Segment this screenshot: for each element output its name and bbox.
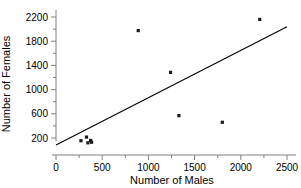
y-tick-label: 1000 (26, 84, 49, 95)
y-axis-title: Number of Females (0, 35, 12, 132)
data-point-marker (169, 71, 172, 74)
data-point-marker (177, 114, 180, 117)
y-tick-label: 2200 (26, 12, 49, 23)
data-point-marker (221, 121, 224, 124)
x-tick-label: 2000 (230, 162, 253, 173)
data-points-group (79, 18, 261, 145)
tick-labels-group: 2006001000140018002200050010001500200025… (26, 12, 299, 174)
trend-line-group (56, 27, 287, 145)
x-tick-label: 500 (94, 162, 111, 173)
y-tick-label: 1400 (26, 60, 49, 71)
data-point-marker (86, 141, 89, 144)
regression-line (56, 27, 287, 145)
data-point-marker (79, 139, 82, 142)
x-tick-label: 1000 (137, 162, 160, 173)
data-point-marker (90, 141, 93, 144)
data-point-marker (258, 18, 261, 21)
y-tick-label: 1800 (26, 36, 49, 47)
x-axis-title: Number of Males (130, 174, 214, 186)
y-tick-label: 600 (31, 108, 48, 119)
scatter-plot-figure: 2006001000140018002200050010001500200025… (0, 0, 301, 188)
plot-canvas: 2006001000140018002200050010001500200025… (0, 0, 301, 188)
data-point-marker (85, 135, 88, 138)
x-tick-label: 0 (53, 162, 59, 173)
x-tick-label: 1500 (183, 162, 206, 173)
data-point-marker (137, 29, 140, 32)
x-tick-label: 2500 (276, 162, 299, 173)
axes-group (52, 10, 296, 155)
y-tick-label: 200 (31, 133, 48, 144)
